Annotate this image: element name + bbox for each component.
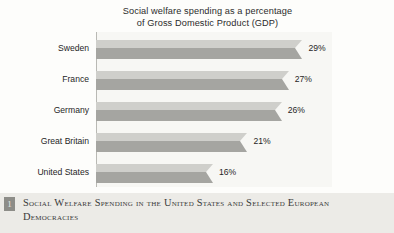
chart-title: Social welfare spending as a percentage …: [85, 5, 330, 30]
bar-body: [96, 110, 275, 121]
caption-number-marker: 1: [4, 197, 15, 211]
bar-row: Great Britain21%: [96, 128, 332, 159]
bar-category-label: Sweden: [58, 43, 89, 53]
bar-cap: [275, 102, 282, 121]
bar-top: [96, 164, 206, 172]
bar-body: [96, 48, 295, 59]
bar-body: [96, 141, 240, 152]
bar-cap: [295, 40, 302, 59]
chart-title-line-2: of Gross Domestic Product (GDP): [85, 17, 330, 29]
bar: [96, 133, 240, 152]
bar-value-label: 21%: [253, 136, 270, 146]
bar-cap: [240, 133, 247, 152]
bar-value-label: 29%: [308, 43, 325, 53]
bar-cap: [206, 164, 213, 183]
bar-value-label: 27%: [295, 74, 312, 84]
bar-top: [96, 133, 240, 141]
bar-category-label: Germany: [54, 105, 89, 115]
bar-row: Sweden29%: [96, 35, 332, 66]
figure-social-welfare-spending: Social welfare spending as a percentage …: [0, 0, 394, 233]
bar-category-label: Great Britain: [41, 136, 89, 146]
caption-strip: 1 Social Welfare Spending in the United …: [0, 193, 394, 233]
caption-text: Social Welfare Spending in the United St…: [23, 196, 386, 224]
bar-body: [96, 172, 206, 183]
bar-top: [96, 40, 295, 48]
bar-category-label: United States: [37, 167, 89, 177]
bar-top: [96, 71, 282, 79]
bar-value-label: 26%: [288, 105, 305, 115]
bar: [96, 164, 206, 183]
bar-value-label: 16%: [219, 167, 236, 177]
chart-title-line-1: Social welfare spending as a percentage: [85, 5, 330, 17]
bar-cap: [282, 71, 289, 90]
bar-top: [96, 102, 275, 110]
bar-row: United States16%: [96, 159, 332, 190]
bar-category-label: France: [62, 74, 89, 84]
bar: [96, 40, 295, 59]
bar-row: Germany26%: [96, 97, 332, 128]
bar: [96, 71, 282, 90]
bar: [96, 102, 275, 121]
bar-body: [96, 79, 282, 90]
bar-row: France27%: [96, 66, 332, 97]
